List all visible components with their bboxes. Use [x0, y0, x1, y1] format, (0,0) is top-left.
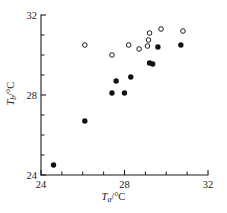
data-point: [122, 90, 127, 95]
y-tick-label: 32: [27, 10, 38, 21]
data-point: [147, 31, 152, 36]
data-point: [126, 43, 131, 48]
plot-canvas: 242832 242832: [0, 0, 227, 213]
data-point: [128, 74, 133, 79]
data-point: [137, 47, 142, 52]
data-point: [181, 29, 186, 34]
y-axis-ticks: [41, 15, 46, 175]
scatter-plot-figure: 242832 242832 Ta/°C Tb/°C: [0, 0, 227, 213]
data-point: [178, 42, 183, 47]
data-point: [82, 118, 87, 123]
y-axis-title: Tb/°C: [6, 64, 17, 124]
y-axis-title-variable: T: [5, 100, 16, 106]
data-point: [110, 53, 115, 58]
data-point: [51, 162, 56, 167]
y-axis-tick-labels: 242832: [27, 10, 38, 181]
series-open: [83, 27, 186, 58]
data-point-layer: [51, 27, 185, 168]
y-axis-title-subscript: b: [9, 96, 18, 100]
data-point: [109, 90, 114, 95]
x-axis-ticks: [41, 170, 208, 175]
data-point: [146, 38, 151, 43]
data-point: [83, 43, 88, 48]
data-point: [145, 44, 150, 49]
x-axis-tick-labels: 242832: [36, 179, 214, 190]
x-axis-title: Ta/°C: [0, 192, 227, 203]
x-tick-label: 32: [203, 179, 214, 190]
data-point: [155, 44, 160, 49]
data-point: [150, 61, 155, 66]
y-axis-title-unit: /°C: [5, 82, 16, 96]
y-tick-label: 28: [27, 90, 38, 101]
x-tick-label: 24: [36, 179, 47, 190]
x-axis-title-unit: /°C: [111, 191, 125, 202]
data-point: [113, 78, 118, 83]
series-filled: [51, 42, 184, 167]
data-point: [159, 27, 164, 32]
x-tick-label: 28: [119, 179, 130, 190]
